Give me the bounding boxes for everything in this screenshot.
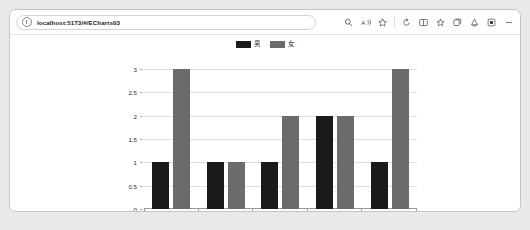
x-axis-end-tick [416, 209, 417, 212]
y-tick-label: 1.5 [128, 136, 137, 143]
y-tick-label: 1 [134, 159, 137, 166]
toolbar-divider [394, 17, 395, 27]
settings-more-icon[interactable] [501, 15, 516, 30]
bar-chart: 00.511.522.53 19992000200220032004 [10, 35, 520, 212]
y-tick-mark [140, 162, 143, 163]
y-tick-label: 2 [134, 112, 137, 119]
bar-female[interactable] [392, 69, 409, 209]
read-aloud-icon[interactable]: A [358, 15, 373, 30]
copilot-icon[interactable] [399, 15, 414, 30]
bar-female[interactable] [173, 69, 190, 209]
y-tick-mark [140, 92, 143, 93]
info-circle-icon[interactable] [22, 17, 32, 27]
bar-group: 2004 [362, 69, 417, 209]
bar-female[interactable] [282, 116, 299, 209]
collections-icon[interactable] [450, 15, 465, 30]
address-bar-url: localhost:5173/#/ECharts03 [37, 19, 120, 26]
bar-group: 2000 [199, 69, 254, 209]
y-tick-mark [140, 209, 143, 210]
favorites-icon[interactable] [433, 15, 448, 30]
y-tick-label: 0 [134, 206, 137, 213]
page-content: 男 女 00.511.522.53 19992000200220032004 [10, 34, 520, 212]
bar-female[interactable] [337, 116, 354, 209]
plot-area: 00.511.522.53 19992000200220032004 [144, 69, 417, 209]
split-screen-icon[interactable] [416, 15, 431, 30]
bar-group: 1999 [144, 69, 199, 209]
y-tick-mark [140, 69, 143, 70]
bar-group: 2002 [253, 69, 308, 209]
toolbar-actions: A [341, 15, 516, 30]
bar-groups: 19992000200220032004 [144, 69, 417, 209]
favorites-star-icon[interactable] [375, 15, 390, 30]
y-tick-label: 2.5 [128, 89, 137, 96]
extensions-icon[interactable] [484, 15, 499, 30]
y-tick-mark [140, 116, 143, 117]
x-axis-start-tick [144, 209, 145, 212]
browser-essentials-icon[interactable] [467, 15, 482, 30]
y-tick-label: 3 [134, 66, 137, 73]
search-in-page-icon[interactable] [341, 15, 356, 30]
y-tick-mark [140, 139, 143, 140]
y-tick-label: 0.5 [128, 182, 137, 189]
browser-toolbar: localhost:5173/#/ECharts03 A [10, 10, 520, 34]
y-tick-mark [140, 186, 143, 187]
bar-male[interactable] [152, 162, 169, 209]
bar-female[interactable] [228, 162, 245, 209]
address-bar[interactable]: localhost:5173/#/ECharts03 [16, 15, 316, 30]
bar-male[interactable] [371, 162, 388, 209]
svg-text:A: A [361, 19, 365, 25]
bar-male[interactable] [207, 162, 224, 209]
bar-male[interactable] [316, 116, 333, 209]
bar-group: 2003 [308, 69, 363, 209]
bar-male[interactable] [261, 162, 278, 209]
browser-window: localhost:5173/#/ECharts03 A [9, 9, 521, 212]
